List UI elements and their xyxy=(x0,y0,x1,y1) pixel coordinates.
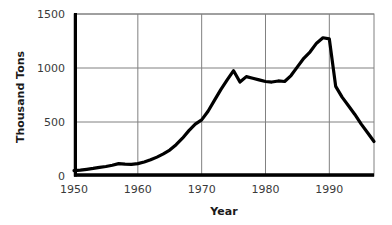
x-axis-title: Year xyxy=(209,205,238,218)
x-tick-label: 1980 xyxy=(251,183,279,196)
x-tick-label: 1950 xyxy=(60,183,88,196)
y-tick-label: 0 xyxy=(58,170,65,183)
y-tick-label: 1500 xyxy=(37,8,65,21)
y-tick-label: 500 xyxy=(44,116,65,129)
line-chart: 050010001500 19501960197019801990 Thousa… xyxy=(0,0,392,225)
x-tick-label: 1990 xyxy=(315,183,343,196)
x-tick-label: 1960 xyxy=(124,183,152,196)
x-tick-label: 1970 xyxy=(188,183,216,196)
chart-figure: 050010001500 19501960197019801990 Thousa… xyxy=(0,0,392,225)
y-axis-title: Thousand Tons xyxy=(14,50,27,143)
y-tick-label: 1000 xyxy=(37,62,65,75)
